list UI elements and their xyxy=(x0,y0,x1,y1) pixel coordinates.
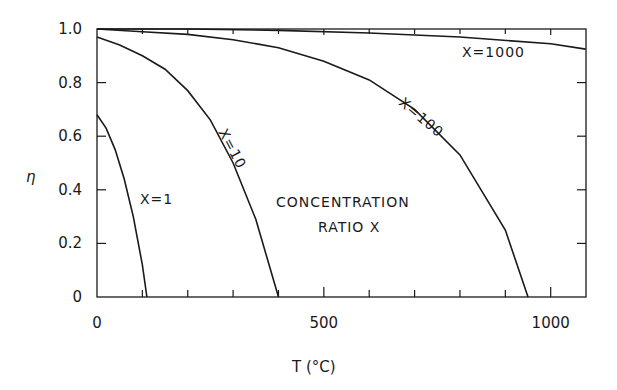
svg-text:0.8: 0.8 xyxy=(58,74,82,92)
label-x100: X=100 xyxy=(396,94,447,140)
y-axis-label: η xyxy=(26,168,36,186)
chart: 00.20.40.60.81.005001000 X=1 X=10 X=100 … xyxy=(0,0,617,390)
label-x1: X=1 xyxy=(140,191,173,207)
svg-text:0.2: 0.2 xyxy=(58,234,82,252)
label-x1000: X=1000 xyxy=(462,44,525,60)
svg-text:1.0: 1.0 xyxy=(58,20,82,38)
svg-text:0: 0 xyxy=(92,314,102,332)
annotation-concentration: CONCENTRATION xyxy=(276,194,410,210)
curve-X=100 xyxy=(97,29,528,297)
svg-text:0: 0 xyxy=(72,288,82,306)
svg-text:0.6: 0.6 xyxy=(58,127,82,145)
svg-text:0.4: 0.4 xyxy=(58,181,82,199)
curve-X=10 xyxy=(97,37,278,297)
annotation-ratio: RATIO X xyxy=(318,219,380,235)
x-axis-label: T (°C) xyxy=(291,358,336,376)
label-x10: X=10 xyxy=(215,126,249,172)
svg-text:1000: 1000 xyxy=(532,314,570,332)
svg-text:500: 500 xyxy=(310,314,339,332)
